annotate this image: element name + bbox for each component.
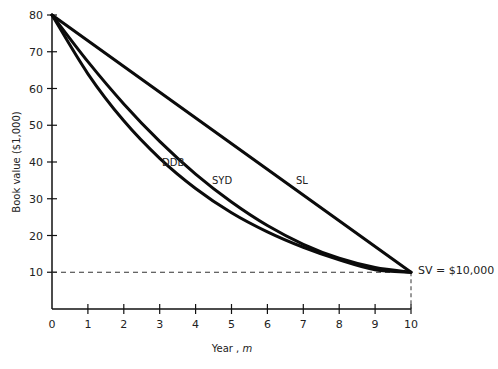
curves bbox=[52, 15, 411, 272]
x-tick-label: 0 bbox=[49, 318, 56, 331]
salvage-reference-lines bbox=[52, 272, 411, 309]
y-tick-label: 70 bbox=[29, 46, 43, 59]
x-tick-label: 3 bbox=[156, 318, 163, 331]
y-tick-label: 20 bbox=[29, 230, 43, 243]
y-tick-label: 40 bbox=[29, 156, 43, 169]
x-tick-label: 4 bbox=[192, 318, 199, 331]
x-tick-label: 8 bbox=[336, 318, 343, 331]
x-axis-title-prefix: Year , bbox=[211, 343, 243, 354]
label-ddb: DDB bbox=[162, 157, 184, 168]
label-syd: SYD bbox=[212, 175, 232, 186]
y-tick-label: 60 bbox=[29, 83, 43, 96]
y-tick-label: 30 bbox=[29, 193, 43, 206]
y-tick-label: 80 bbox=[29, 9, 43, 22]
x-tick-label: 1 bbox=[84, 318, 91, 331]
x-tick-label: 10 bbox=[404, 318, 418, 331]
salvage-value-label: SV = $10,000 bbox=[418, 264, 494, 277]
y-tick-label: 10 bbox=[29, 266, 43, 279]
curve-sl bbox=[52, 15, 411, 272]
x-tick-label: 5 bbox=[228, 318, 235, 331]
y-tick-label: 50 bbox=[29, 119, 43, 132]
label-sl: SL bbox=[296, 175, 308, 186]
x-axis-title: Year , m bbox=[211, 343, 253, 354]
x-tick-label: 6 bbox=[264, 318, 271, 331]
x-tick-label: 7 bbox=[300, 318, 307, 331]
x-tick-label: 2 bbox=[120, 318, 127, 331]
x-axis-variable: m bbox=[242, 343, 252, 354]
axes: 0123456789101020304050607080 bbox=[29, 9, 418, 331]
x-tick-label: 9 bbox=[372, 318, 379, 331]
depreciation-chart: 0123456789101020304050607080 Book value … bbox=[0, 0, 498, 369]
y-axis-title: Book value ($1,000) bbox=[11, 111, 22, 212]
